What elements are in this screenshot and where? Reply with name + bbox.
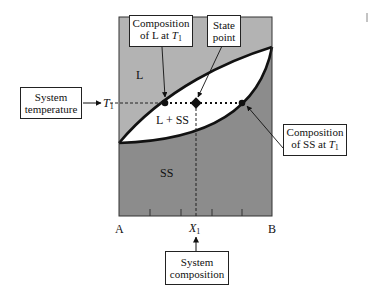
two-phase-region-label: L + SS <box>156 114 189 126</box>
callout-system-temperature: System temperature <box>20 87 82 119</box>
solid-composition-point <box>239 100 246 107</box>
liquid-region-label: L <box>136 69 143 81</box>
callout-composition-L: Composition of L at T1 <box>129 15 193 47</box>
solid-region-label: SS <box>160 167 173 179</box>
callout-composition-SS: Composition of SS at T1 <box>283 124 347 156</box>
callout-system-composition: System composition <box>165 251 229 285</box>
axis-label-b: B <box>268 223 276 235</box>
liquid-composition-point <box>162 100 169 107</box>
callout-state-point: State point <box>207 15 241 47</box>
t1-label: T1 <box>103 97 114 113</box>
axis-label-a: A <box>115 223 124 235</box>
x1-label: X1 <box>189 222 200 238</box>
